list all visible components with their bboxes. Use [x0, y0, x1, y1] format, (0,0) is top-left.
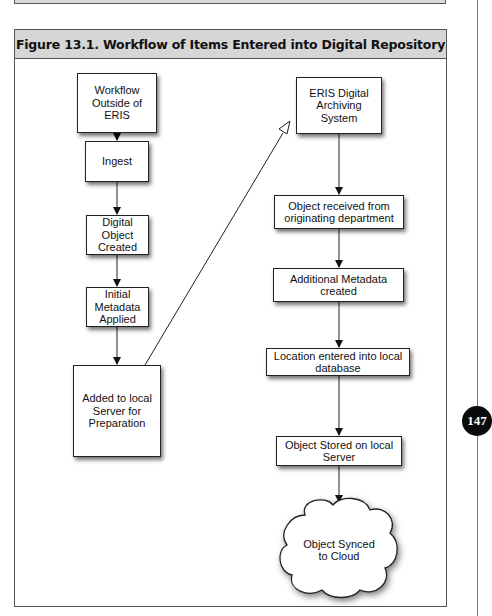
node-initial-metadata-applied: Initial Metadata Applied	[86, 287, 149, 327]
node-added-to-local-server: Added to local Server for Preparation	[73, 365, 161, 457]
node-object-stored: Object Stored on local Server	[276, 436, 402, 466]
node-digital-object-created: Digital Object Created	[86, 215, 149, 255]
node-eris-digital-archiving-system: ERIS Digital Archiving System	[296, 77, 382, 134]
node-ingest: Ingest	[85, 141, 149, 182]
node-object-synced-to-cloud: Object Synced to Cloud	[290, 530, 388, 570]
arrow-local-server-to-eris	[145, 121, 290, 365]
node-location-entered: Location entered into local database	[266, 348, 410, 376]
node-workflow-outside-eris: Workflow Outside of ERIS	[77, 73, 157, 133]
node-object-received: Object received from originating departm…	[274, 195, 404, 229]
node-additional-metadata: Additional Metadata created	[273, 268, 404, 302]
flow-connectors	[0, 0, 492, 616]
